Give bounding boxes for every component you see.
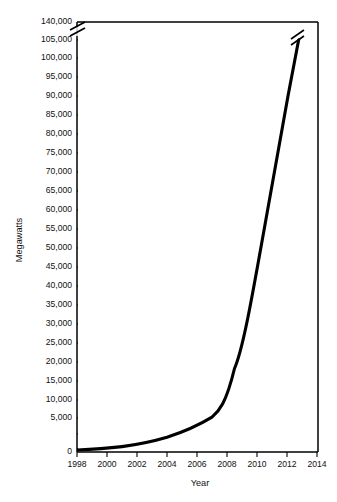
y-tick-label: 70,000 [46,166,73,176]
y-tick-label: 30,000 [46,318,73,328]
y-tick-label: 65,000 [46,185,73,195]
y-tick-label: 20,000 [46,356,73,366]
y-tick-label: 0 [67,446,72,456]
x-tick-label: 2004 [157,459,176,469]
x-tick-label: 2014 [307,459,326,469]
y-tick-label: 80,000 [46,128,73,138]
x-tick-label: 2010 [247,459,266,469]
x-tick-label: 2000 [97,459,116,469]
x-tick-label: 2012 [277,459,296,469]
chart-figure: 140,000 105,000 100,000 95,000 90,000 85… [0,0,337,502]
y-tick-label: 75,000 [46,147,73,157]
y-tick-label: 60,000 [46,204,73,214]
y-tick-label: 105,000 [41,34,72,44]
y-tick-label: 100,000 [41,52,72,62]
x-tick-label: 2006 [187,459,206,469]
line-chart-svg: 140,000 105,000 100,000 95,000 90,000 85… [0,0,337,502]
y-axis-title: Megawatts [14,217,24,262]
x-tick-label: 1998 [67,459,86,469]
y-tick-label: 35,000 [46,299,73,309]
y-tick-label: 5,000 [50,412,72,422]
x-axis-tick-labels: 1998 2000 2002 2004 2006 2008 2010 2012 … [67,459,326,469]
x-tick-label: 2008 [217,459,236,469]
y-tick-label: 90,000 [46,90,73,100]
y-tick-label: 45,000 [46,261,73,271]
y-tick-label: 25,000 [46,337,73,347]
y-tick-label: 15,000 [46,375,73,385]
x-axis-title: Year [191,478,210,488]
data-series-overlay [77,24,317,451]
y-tick-label: 55,000 [46,223,73,233]
y-tick-label: 10,000 [46,394,73,404]
x-tick-label: 2002 [127,459,146,469]
y-tick-label: 40,000 [46,280,73,290]
y-tick-label: 50,000 [46,242,73,252]
y-tick-label: 140,000 [41,16,72,26]
y-tick-label: 85,000 [46,109,73,119]
y-tick-label: 95,000 [46,71,73,81]
